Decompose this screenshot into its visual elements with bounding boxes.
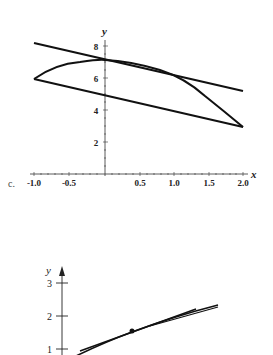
y-tick-label: 6 — [94, 74, 99, 84]
tangency-point — [130, 329, 135, 334]
y-tick-label: 4 — [94, 106, 99, 116]
y-ticks — [103, 46, 108, 166]
x-axis-label: x — [250, 168, 257, 180]
x-tick-label: -0.5 — [62, 178, 77, 188]
secant-line — [34, 79, 243, 127]
y-tick-label: 8 — [94, 42, 99, 52]
y-tick-label: 2 — [47, 311, 52, 322]
x-tick-label: 0.5 — [134, 178, 146, 188]
x-tick-label: 2.0 — [237, 178, 249, 188]
y-axis-label: y — [100, 25, 107, 37]
curve — [34, 60, 243, 127]
y-axis-label: y — [45, 264, 51, 276]
curve-upper — [150, 307, 218, 326]
x-tick-label: 1.5 — [203, 178, 215, 188]
y-tick-label: 1 — [47, 344, 52, 355]
x-tick-label: 1.0 — [168, 178, 180, 188]
y-axis-arrow-icon — [59, 266, 65, 276]
figure: 8 6 4 2 -1.0 -0.5 0.5 1.0 1.5 2.0 x y c.… — [0, 0, 273, 355]
y-tick-label: 2 — [94, 138, 99, 148]
part-label: c. — [8, 178, 15, 189]
x-tick-label: -1.0 — [27, 178, 42, 188]
tangent-line — [34, 43, 243, 91]
top-chart: 8 6 4 2 -1.0 -0.5 0.5 1.0 1.5 2.0 x y c. — [8, 25, 257, 189]
bottom-chart: 3 2 1 y — [45, 264, 218, 355]
y-tick-label: 3 — [47, 278, 52, 289]
